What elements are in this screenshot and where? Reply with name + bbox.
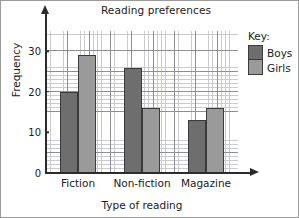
bar-girls-magazine [206, 108, 224, 173]
legend-title: Key: [248, 30, 299, 42]
legend-swatch-girls [248, 60, 263, 75]
bar-boys-magazine [188, 120, 206, 173]
bar-boys-fiction [60, 92, 78, 173]
y-tick-mark-0 [45, 172, 49, 173]
bar-boys-non-fiction [124, 68, 142, 173]
y-tick-mark-30 [45, 51, 49, 52]
legend-item-girls: Girls [248, 60, 299, 75]
y-axis-label: Frequency [10, 22, 22, 118]
chart-figure: Reading preferences 0102030 Frequency Ty… [0, 0, 299, 218]
x-tick-label-magazine: Magazine [181, 177, 231, 189]
chart-legend: Key: Boys Girls [248, 30, 299, 75]
x-axis-arrow-icon [250, 168, 259, 176]
x-tick-label-fiction: Fiction [61, 177, 95, 189]
legend-label-boys: Boys [267, 47, 292, 59]
chart-title: Reading preferences [71, 4, 241, 16]
bar-girls-non-fiction [142, 108, 160, 173]
plot-area [46, 31, 238, 173]
legend-swatch-boys [248, 45, 263, 60]
y-axis-arrow-icon [41, 5, 49, 14]
y-tick-mark-10 [45, 132, 49, 133]
y-tick-mark-20 [45, 91, 49, 92]
x-axis-line [45, 172, 251, 174]
legend-item-boys: Boys [248, 45, 299, 60]
x-tick-label-non-fiction: Non-fiction [113, 177, 170, 189]
bar-girls-fiction [78, 55, 96, 173]
y-tick-label-10: 10 [17, 127, 41, 138]
legend-label-girls: Girls [267, 62, 291, 74]
y-axis-line [45, 13, 47, 173]
y-tick-label-0: 0 [17, 168, 41, 179]
x-axis-label: Type of reading [46, 199, 238, 211]
